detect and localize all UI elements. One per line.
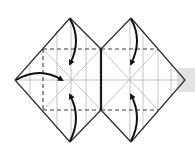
outer-edge: [101, 18, 131, 49]
fold-arrow-bottom-icon: [131, 95, 137, 141]
right-diamond: [101, 18, 185, 142]
origami-diagram: [0, 0, 195, 152]
fold-arrow-top-icon: [131, 19, 137, 64]
left-diamond: [15, 18, 101, 142]
outer-edge: [101, 110, 131, 142]
fold-arrow-left-icon: [16, 73, 62, 80]
